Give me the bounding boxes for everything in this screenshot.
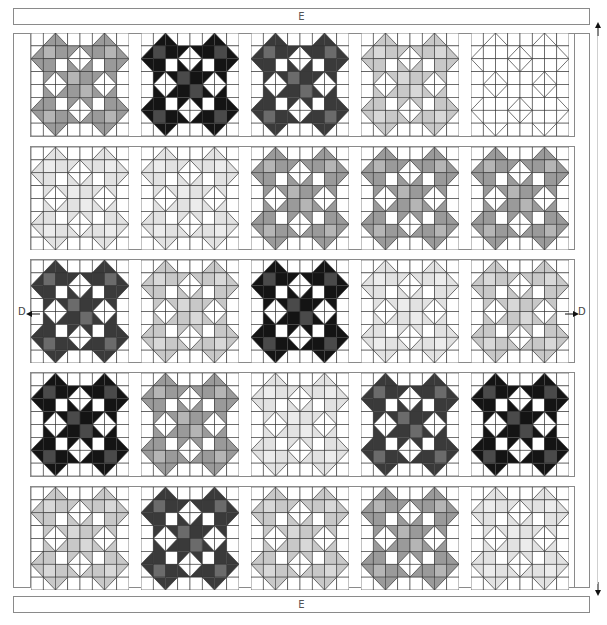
quilt-block-r5-c2 [141,487,239,590]
quilt-block-r4-c3 [251,373,349,476]
quilt-block-r5-c4 [361,487,459,590]
quilt-block-r3-c2 [141,260,239,363]
sawtooth-star-block-icon [141,260,239,363]
quilt-block-r4-c5 [471,373,569,476]
quilt-block-r4-c1 [31,373,129,476]
bottom-border-label: E [14,598,589,612]
right-dimension-label: D [578,306,586,317]
top-border-label: E [14,10,589,24]
quilt-block-r2-c4 [361,147,459,250]
down-arrow-icon [594,582,602,596]
quilt-block-r2-c1 [31,147,129,250]
sawtooth-star-block-icon [31,33,129,136]
sashing-strip [30,249,575,260]
sawtooth-star-block-icon [361,260,459,363]
quilt-block-r1-c5 [471,33,569,136]
up-arrow-icon [594,22,602,36]
sawtooth-star-block-icon [251,373,349,476]
quilt-block-r3-c1 [31,260,129,363]
sawtooth-star-block-icon [361,147,459,250]
quilt-block-r4-c2 [141,373,239,476]
sawtooth-star-block-icon [471,147,569,250]
sashing-strip [30,476,575,487]
quilt-block-r2-c5 [471,147,569,250]
sawtooth-star-block-icon [471,33,569,136]
sawtooth-star-block-icon [31,260,129,363]
height-dimension-line [597,36,598,584]
sawtooth-star-block-icon [471,373,569,476]
sawtooth-star-block-icon [141,33,239,136]
sawtooth-star-block-icon [141,373,239,476]
quilt-block-r5-c1 [31,487,129,590]
quilt-block-r5-c3 [251,487,349,590]
sawtooth-star-block-icon [31,373,129,476]
left-dimension-label: D [18,306,26,317]
quilt-block-r2-c3 [251,147,349,250]
sawtooth-star-block-icon [471,260,569,363]
quilt-block-r4-c4 [361,373,459,476]
quilt-block-r1-c2 [141,33,239,136]
sawtooth-star-block-icon [361,33,459,136]
quilt-block-r1-c1 [31,33,129,136]
sawtooth-star-block-icon [251,147,349,250]
quilt-block-r5-c5 [471,487,569,590]
sashing-strip [30,136,575,147]
right-arrow-icon [565,310,579,318]
sawtooth-star-block-icon [141,147,239,250]
top-border-strip: E [13,8,590,25]
quilt-block-r2-c2 [141,147,239,250]
sawtooth-star-block-icon [31,487,129,590]
bottom-border-strip: E [13,596,590,613]
sawtooth-star-block-icon [251,33,349,136]
sawtooth-star-block-icon [31,147,129,250]
sawtooth-star-block-icon [141,487,239,590]
quilt-block-r3-c5 [471,260,569,363]
quilt-block-r3-c3 [251,260,349,363]
quilt-block-r3-c4 [361,260,459,363]
quilt-block-r1-c4 [361,33,459,136]
sawtooth-star-block-icon [251,487,349,590]
quilt-block-r1-c3 [251,33,349,136]
sashing-strip [30,362,575,373]
sawtooth-star-block-icon [471,487,569,590]
left-arrow-icon [26,310,40,318]
sawtooth-star-block-icon [361,373,459,476]
sawtooth-star-block-icon [251,260,349,363]
sawtooth-star-block-icon [361,487,459,590]
